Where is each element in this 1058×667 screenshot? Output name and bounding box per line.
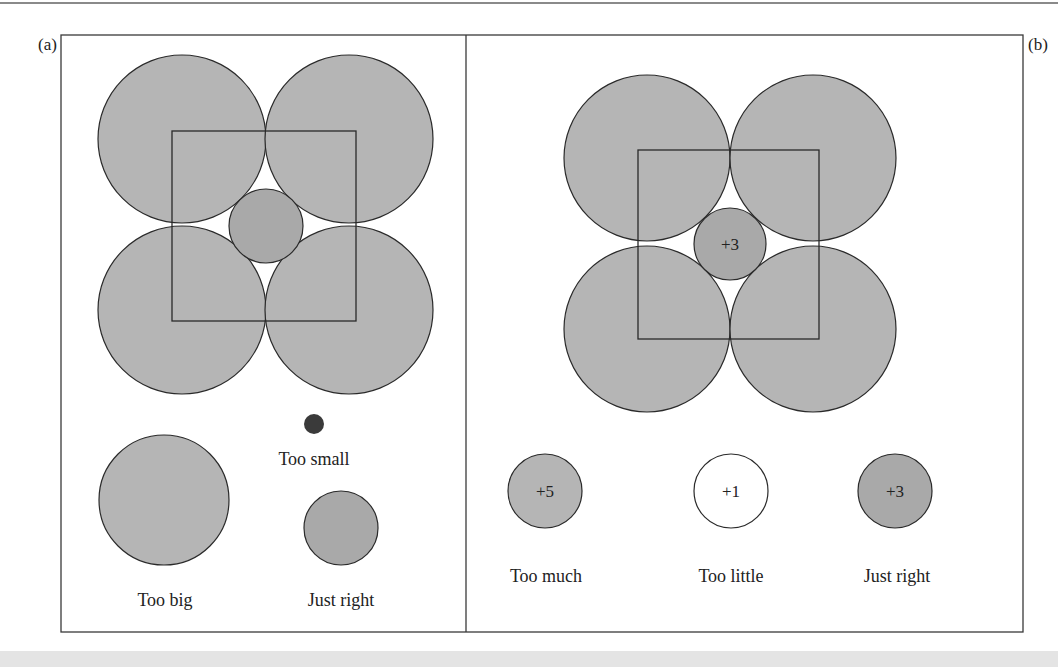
large-circle [730,75,896,241]
just-right-label: Just right [308,590,375,610]
large-circle [98,55,266,223]
too-small-label: Too small [278,449,349,469]
large-circle [730,246,896,412]
just-right-circle [304,491,378,565]
large-circle [564,246,730,412]
interstitial-circle [229,189,303,263]
interstitial-charge: +3 [721,235,739,254]
just-right-charge: +3 [886,482,904,501]
too-big-circle [99,435,229,565]
too-much-charge: +5 [536,482,554,501]
too-much-label: Too much [510,566,582,586]
just-right-label: Just right [864,566,931,586]
large-circle [564,75,730,241]
page-bottom-band [0,651,1058,667]
panel-a: Too small Too big Just right [98,55,433,610]
too-big-label: Too big [137,590,192,610]
panel-b: +3 +5 Too much +1 Too little +3 Just rig… [508,75,932,586]
packing-diagram: Too small Too big Just right +3 +5 Too m… [0,0,1058,667]
too-little-label: Too little [698,566,763,586]
too-little-charge: +1 [722,482,740,501]
too-small-dot [304,414,324,434]
